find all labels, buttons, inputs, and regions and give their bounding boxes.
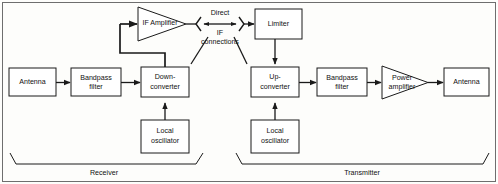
block-limiter-label: Limiter <box>268 20 290 28</box>
block-tx-bandpass-filter-label-line1: Bandpass <box>326 74 358 82</box>
block-tx-antenna-label: Antenna <box>453 78 479 86</box>
lead-line-to-transmitter-side <box>234 37 247 64</box>
block-rx-bandpass-filter-label-line1: Bandpass <box>80 74 112 82</box>
section-label-receiver: Receiver <box>90 169 119 177</box>
block-down-converter-label-line2: converter <box>150 83 180 91</box>
block-rx-bandpass-filter-label-line2: filter <box>89 83 103 91</box>
brace-receiver <box>10 153 203 164</box>
lead-line-to-receiver-side <box>191 37 208 64</box>
section-label-transmitter: Transmitter <box>344 169 380 177</box>
brace-transmitter <box>236 153 489 164</box>
block-rx-antenna-label: Antenna <box>19 78 45 86</box>
block-tx-local-oscillator-label-line2: oscillator <box>261 137 290 145</box>
block-power-amplifier-label-line1: Power <box>392 74 413 82</box>
block-up-converter-label-line2: converter <box>260 83 290 91</box>
block-power-amplifier-label-line2: amplifier <box>389 83 416 91</box>
block-up-converter-label-line1: Up- <box>269 73 281 81</box>
block-tx-local-oscillator-label-line1: Local <box>267 127 284 135</box>
block-tx-bandpass-filter-label-line2: filter <box>335 83 349 91</box>
break-mark-left-icon <box>196 17 201 31</box>
block-diagram-svg: Antenna Bandpass filter Down- converter … <box>0 0 498 184</box>
direct-if-label-line2: IF <box>217 29 224 37</box>
direct-if-label-line1: Direct <box>211 9 230 17</box>
block-down-converter-label-line1: Down- <box>155 73 176 81</box>
block-diagram-canvas: Antenna Bandpass filter Down- converter … <box>0 0 498 184</box>
block-rx-local-oscillator-label-line2: oscillator <box>151 137 180 145</box>
block-rx-local-oscillator-label-line1: Local <box>157 127 174 135</box>
break-mark-right-icon <box>239 17 244 31</box>
block-if-amplifier-label: IF Amplifier <box>142 19 178 27</box>
